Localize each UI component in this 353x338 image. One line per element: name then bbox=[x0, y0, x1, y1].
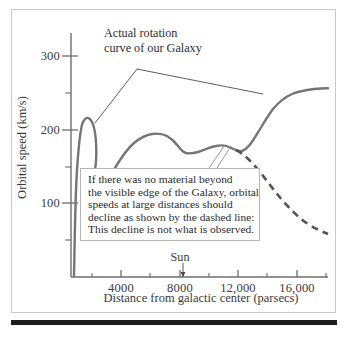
y-axis-minor-ticks bbox=[65, 93, 71, 240]
callout-line-2: the visible edge of the Galaxy, orbital bbox=[88, 186, 253, 199]
callout-leader-line bbox=[209, 145, 225, 168]
x-axis-title: Distance from galactic center (parsecs) bbox=[101, 291, 301, 306]
sun-arrow bbox=[181, 263, 186, 278]
y-axis-title: Orbital speed (km/s) bbox=[15, 88, 30, 208]
figure-container: 300 200 100 4000 8000 12,000 16,000 Orbi… bbox=[0, 0, 353, 338]
callout-line-4: decline as shown by the dashed line: bbox=[88, 211, 253, 224]
actual-curve-annotation-line-2: curve of our Galaxy bbox=[104, 41, 202, 56]
callout-leader-line-2 bbox=[217, 146, 231, 168]
dashed-line-callout-box: If there was no material beyond the visi… bbox=[80, 168, 260, 241]
y-tick-label-200: 200 bbox=[36, 123, 60, 138]
callout-line-3: speeds at large distances should bbox=[88, 198, 253, 211]
y-tick-label-100: 100 bbox=[36, 196, 60, 211]
callout-line-5: This decline is not what is observed. bbox=[88, 223, 253, 236]
callout-line-1: If there was no material beyond bbox=[88, 173, 253, 186]
actual-curve-leader-line bbox=[95, 69, 263, 123]
actual-curve-annotation: Actual rotation curve of our Galaxy bbox=[104, 26, 202, 55]
actual-curve-annotation-line-1: Actual rotation bbox=[104, 26, 202, 41]
y-tick-label-300: 300 bbox=[36, 49, 60, 64]
sun-marker-label: Sun bbox=[153, 250, 207, 265]
